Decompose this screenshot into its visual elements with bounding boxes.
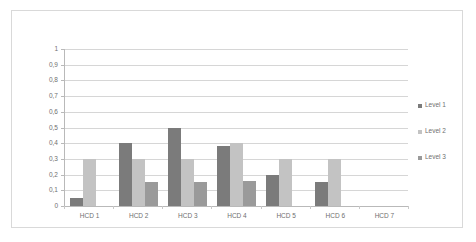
x-axis-tick-labels: HCD 1HCD 2HCD 3HCD 4HCD 5HCD 6HCD 7	[65, 208, 409, 220]
y-axis-tick-mark	[61, 65, 64, 66]
bar	[194, 182, 207, 206]
bar-group	[310, 49, 359, 206]
y-axis-tick-mark	[61, 159, 64, 160]
bar	[145, 182, 158, 206]
x-axis-tick-label: HCD 1	[65, 208, 114, 220]
y-axis-tick-mark	[61, 96, 64, 97]
x-axis-tick-label: HCD 5	[262, 208, 311, 220]
bar-group	[65, 49, 114, 206]
bar	[279, 159, 292, 206]
bar	[266, 175, 279, 206]
chart-legend: Level 1Level 2Level 3	[418, 99, 472, 177]
y-axis-tick-label: 0,6	[49, 109, 58, 116]
legend-label: Level 3	[425, 154, 446, 161]
bars-layer	[65, 49, 408, 206]
x-axis-tick-label: HCD 2	[114, 208, 163, 220]
bar	[70, 198, 83, 206]
x-axis-tick-label: HCD 6	[311, 208, 360, 220]
plot-area: 00,10,20,30,40,50,60,70,80,91	[64, 49, 408, 206]
x-axis-tick-label: HCD 3	[163, 208, 212, 220]
y-axis-tick-label: 0	[54, 203, 58, 210]
bar-group	[163, 49, 212, 206]
x-axis-tick-label: HCD 7	[360, 208, 409, 220]
y-axis-tick-label: 0,5	[49, 124, 58, 131]
bar	[168, 128, 181, 207]
legend-label: Level 1	[425, 102, 446, 109]
bar-group	[212, 49, 261, 206]
bar	[181, 159, 194, 206]
y-axis-tick-mark	[61, 49, 64, 50]
legend-swatch-icon	[418, 156, 422, 160]
y-axis-tick-label: 0,4	[49, 140, 58, 147]
legend-item[interactable]: Level 1	[418, 99, 472, 112]
x-axis-line	[64, 206, 409, 207]
bar	[83, 159, 96, 206]
y-axis-tick-label: 0,8	[49, 77, 58, 84]
x-axis-tick-label: HCD 4	[212, 208, 261, 220]
bar	[315, 182, 328, 206]
legend-label: Level 2	[425, 128, 446, 135]
legend-item[interactable]: Level 3	[418, 151, 472, 164]
y-axis-tick-label: 0,2	[49, 171, 58, 178]
y-axis-tick-mark	[61, 112, 64, 113]
y-axis-tick-mark	[61, 143, 64, 144]
y-axis-tick-label: 0,1	[49, 187, 58, 194]
legend-swatch-icon	[418, 130, 422, 134]
y-axis-tick-label: 0,9	[49, 61, 58, 68]
legend-swatch-icon	[418, 104, 422, 108]
y-axis-tick-mark	[61, 175, 64, 176]
y-axis-tick-label: 1	[54, 46, 58, 53]
bar	[328, 159, 341, 206]
y-axis-tick-mark	[61, 128, 64, 129]
y-axis-tick-mark	[61, 190, 64, 191]
bar	[132, 159, 145, 206]
bar-group	[261, 49, 310, 206]
legend-item[interactable]: Level 2	[418, 125, 472, 138]
bar	[230, 143, 243, 206]
bar	[243, 181, 256, 206]
bar	[217, 146, 230, 206]
y-axis-tick-label: 0,3	[49, 156, 58, 163]
bar-group	[359, 49, 408, 206]
y-axis-tick-mark	[61, 80, 64, 81]
bar	[119, 143, 132, 206]
chart-frame: 00,10,20,30,40,50,60,70,80,91 HCD 1HCD 2…	[11, 10, 463, 228]
y-axis-tick-label: 0,7	[49, 93, 58, 100]
bar-group	[114, 49, 163, 206]
